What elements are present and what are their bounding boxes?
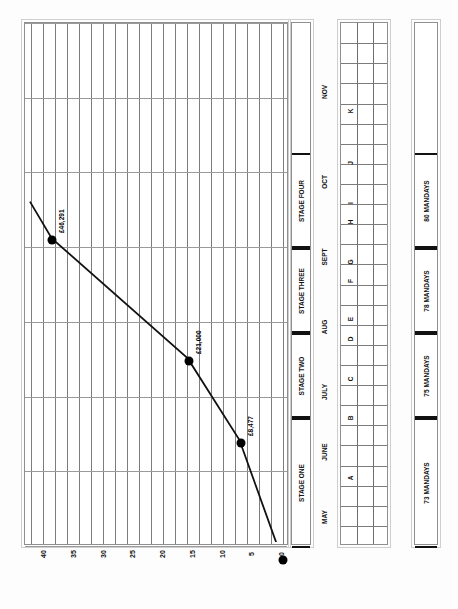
main-chart-panel: £8,477£21,000£46,291 (24, 22, 288, 545)
mandays-label: 75 MANDAYS (423, 355, 430, 396)
value-axis-tick: 5 (248, 552, 255, 556)
month-label: JULY (321, 384, 328, 400)
activity-row-line (341, 43, 387, 44)
month-label: NOV (321, 85, 328, 99)
data-point-label: £8,477 (247, 416, 254, 436)
stage-label: STAGE ONE (298, 464, 305, 502)
data-point-marker[interactable] (237, 439, 246, 448)
data-point-marker[interactable] (185, 357, 194, 366)
data-point-label: £21,000 (195, 331, 202, 355)
mandays-label: 73 MANDAYS (423, 462, 430, 503)
activity-label[interactable]: K (347, 109, 354, 114)
activity-row-line (341, 486, 387, 487)
mandays-label: 78 MANDAYS (423, 270, 430, 311)
data-point-marker[interactable] (48, 236, 57, 245)
value-axis-tick: 35 (70, 550, 77, 558)
cost-line-plot (25, 23, 287, 542)
activity-label[interactable]: G (347, 259, 354, 264)
value-axis-tick: 15 (189, 550, 196, 558)
activity-row-line (341, 305, 387, 306)
month-label: OCT (321, 175, 328, 189)
value-axis-tick: 0 (278, 552, 285, 556)
activity-label[interactable]: C (347, 377, 354, 382)
stage-label: STAGE FOUR (298, 179, 305, 221)
activity-label[interactable]: E (347, 317, 354, 321)
activity-row-line (341, 365, 387, 366)
value-axis-tick: 40 (40, 550, 47, 558)
activity-label[interactable]: A (347, 476, 354, 481)
stage-bar-panel: STAGE FOURSTAGE THREESTAGE TWOSTAGE ONE (291, 22, 311, 545)
activity-row-line (341, 264, 387, 265)
activity-row-line (341, 285, 387, 286)
data-point-label: £46,291 (58, 210, 65, 234)
month-axis-column: NOVOCTSEPTAUGJULYJUNEMAY (313, 22, 335, 545)
activity-row-line (341, 144, 387, 145)
chart-page: £8,477£21,000£46,291 4035302520151050 ST… (0, 0, 458, 609)
activity-label[interactable]: D (347, 337, 354, 342)
activity-row-line (341, 184, 387, 185)
value-axis-tick-labels: 4035302520151050 (24, 548, 288, 588)
activity-row-line (341, 63, 387, 64)
activity-row-line (341, 526, 387, 527)
activity-label[interactable]: J (347, 161, 354, 165)
activity-grid-panel: KJIHGFEDCBA (340, 22, 388, 545)
activity-label[interactable]: I (347, 202, 354, 204)
month-label: MAY (321, 510, 328, 524)
value-axis-tick: 25 (129, 550, 136, 558)
activity-row-line (341, 124, 387, 125)
value-axis-tick: 20 (159, 550, 166, 558)
month-label: JUNE (321, 443, 328, 460)
month-label: SEPT (321, 249, 328, 266)
activity-label[interactable]: H (347, 220, 354, 225)
activity-row-line (341, 385, 387, 386)
activity-row-line (341, 425, 387, 426)
stage-label: STAGE THREE (298, 268, 305, 314)
month-label: AUG (321, 320, 328, 334)
mandays-panel: 80 MANDAYS78 MANDAYS75 MANDAYS73 MANDAYS (414, 22, 438, 545)
value-axis-tick: 30 (100, 550, 107, 558)
activity-row-line (341, 506, 387, 507)
grid-time-line (25, 546, 287, 547)
activity-row-line (341, 204, 387, 205)
activity-row-line (341, 445, 387, 446)
activity-label[interactable]: B (347, 416, 354, 421)
mandays-label: 80 MANDAYS (423, 180, 430, 221)
activity-row-line (341, 466, 387, 467)
activity-row-line (341, 83, 387, 84)
stage-label: STAGE TWO (298, 356, 305, 395)
activity-label[interactable]: F (347, 279, 354, 283)
activity-row-line (341, 405, 387, 406)
activity-row-line (341, 104, 387, 105)
cost-curve (30, 202, 281, 542)
value-axis-tick: 10 (219, 550, 226, 558)
activity-row-line (341, 345, 387, 346)
activity-row-line (341, 244, 387, 245)
activity-row-line (341, 325, 387, 326)
